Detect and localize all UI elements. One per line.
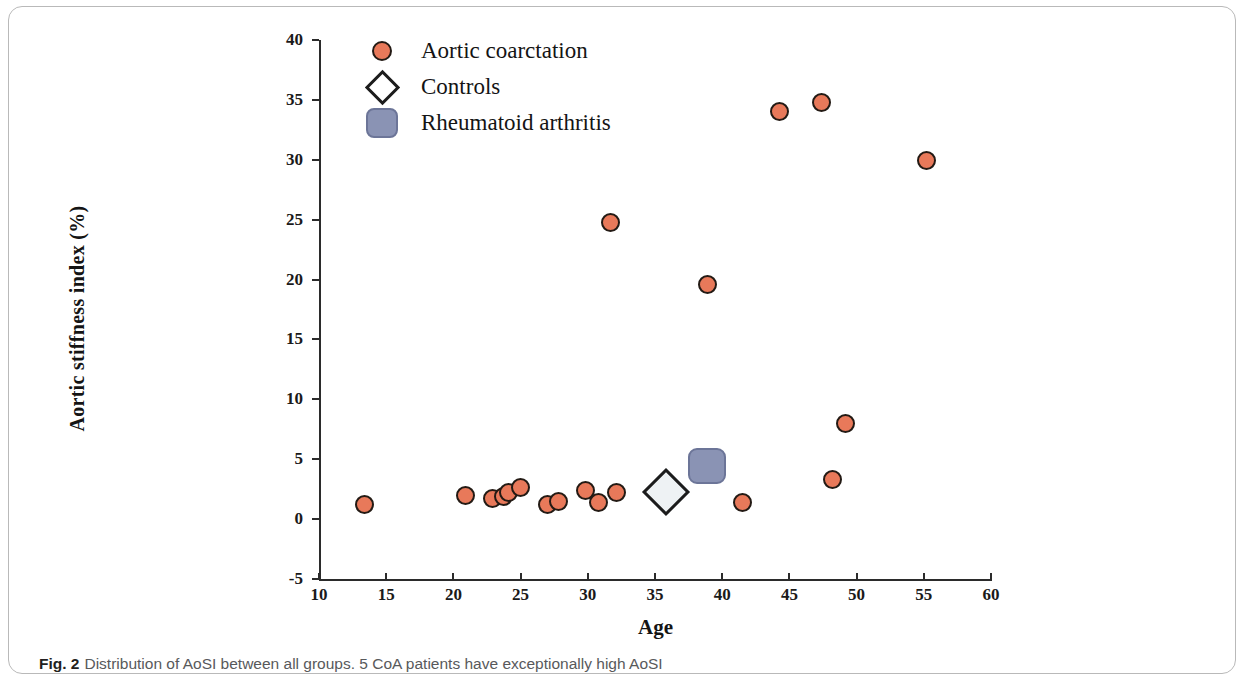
legend-marker-circle-icon xyxy=(359,41,405,61)
data-point-circle xyxy=(549,492,568,511)
x-tick-mark xyxy=(721,573,723,580)
x-tick-mark xyxy=(923,573,925,580)
data-point-circle xyxy=(823,470,842,489)
x-tick-label: 50 xyxy=(827,586,887,603)
y-axis-line xyxy=(319,40,321,581)
legend: Aortic coarctationControlsRheumatoid art… xyxy=(359,33,689,141)
data-point-circle xyxy=(355,495,374,514)
data-point-circle xyxy=(770,102,789,121)
legend-label: Aortic coarctation xyxy=(421,38,588,64)
data-point-square xyxy=(688,448,726,484)
y-tick-mark xyxy=(312,398,319,400)
y-tick-label: 20 xyxy=(263,271,303,288)
y-tick-label: 40 xyxy=(263,31,303,48)
legend-marker-diamond-icon xyxy=(359,75,405,100)
legend-item-aortic-coarctation[interactable]: Aortic coarctation xyxy=(359,33,689,69)
x-tick-label: 60 xyxy=(961,586,1021,603)
y-tick-mark xyxy=(312,518,319,520)
data-point-circle xyxy=(589,493,608,512)
y-tick-label: 0 xyxy=(263,510,303,527)
x-tick-label: 35 xyxy=(625,586,685,603)
y-tick-label: 25 xyxy=(263,211,303,228)
y-tick-label: 30 xyxy=(263,151,303,168)
data-point-circle xyxy=(812,93,831,112)
legend-label: Rheumatoid arthritis xyxy=(421,110,611,136)
data-point-circle xyxy=(601,213,620,232)
data-point-circle xyxy=(836,414,855,433)
x-tick-label: 15 xyxy=(356,586,416,603)
figure-caption-label: Fig. 2 xyxy=(39,655,79,672)
x-tick-label: 20 xyxy=(423,586,483,603)
x-tick-label: 30 xyxy=(558,586,618,603)
y-tick-label: 15 xyxy=(263,330,303,347)
y-tick-mark xyxy=(312,159,319,161)
x-tick-mark xyxy=(520,573,522,580)
scatter-plot: -50510152025303540 101520253035404550556… xyxy=(9,7,1244,647)
y-tick-label: 10 xyxy=(263,390,303,407)
data-point-diamond xyxy=(642,468,690,516)
legend-item-rheumatoid-arthritis[interactable]: Rheumatoid arthritis xyxy=(359,105,689,141)
y-tick-label: -5 xyxy=(263,570,303,587)
x-tick-mark xyxy=(990,573,992,580)
data-point-circle xyxy=(733,493,752,512)
y-tick-label: 5 xyxy=(263,450,303,467)
y-tick-mark xyxy=(312,338,319,340)
y-tick-mark xyxy=(312,99,319,101)
x-tick-label: 40 xyxy=(692,586,752,603)
data-point-circle xyxy=(456,486,475,505)
y-tick-mark xyxy=(312,279,319,281)
y-tick-mark xyxy=(312,458,319,460)
x-tick-label: 10 xyxy=(289,586,349,603)
figure-caption: Fig. 2Distribution of AoSI between all g… xyxy=(39,655,1199,673)
x-tick-mark xyxy=(385,573,387,580)
figure-caption-text: Distribution of AoSI between all groups.… xyxy=(84,655,662,672)
data-point-circle xyxy=(917,151,936,170)
x-tick-mark xyxy=(318,573,320,580)
legend-label: Controls xyxy=(421,74,500,100)
x-tick-mark xyxy=(654,573,656,580)
legend-item-controls[interactable]: Controls xyxy=(359,69,689,105)
x-tick-label: 55 xyxy=(894,586,954,603)
legend-marker-square-icon xyxy=(359,108,405,138)
y-axis-title: Aortic stiffness index (%) xyxy=(66,149,89,489)
data-point-circle xyxy=(511,478,530,497)
y-tick-mark xyxy=(312,219,319,221)
data-point-circle xyxy=(698,275,717,294)
y-tick-mark xyxy=(312,39,319,41)
y-tick-label: 35 xyxy=(263,91,303,108)
x-tick-mark xyxy=(788,573,790,580)
figure-card: -50510152025303540 101520253035404550556… xyxy=(8,6,1236,674)
x-tick-mark xyxy=(856,573,858,580)
x-axis-title: Age xyxy=(319,615,992,640)
x-tick-label: 45 xyxy=(759,586,819,603)
x-tick-mark xyxy=(587,573,589,580)
x-tick-mark xyxy=(452,573,454,580)
x-tick-label: 25 xyxy=(491,586,551,603)
data-point-circle xyxy=(607,483,626,502)
